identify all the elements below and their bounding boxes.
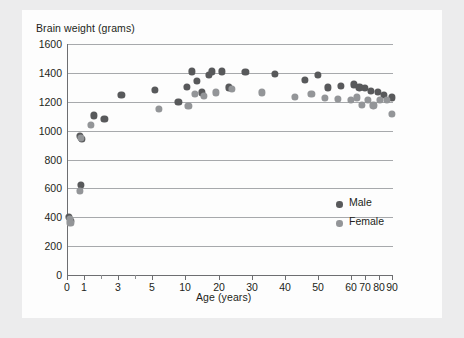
x-axis-tick <box>67 275 68 280</box>
y-axis-tick-labels: 02004006008001000120014001600 <box>26 44 62 275</box>
x-axis-tick <box>285 275 286 280</box>
y-axis-title: Brain weight (grams) <box>36 22 135 34</box>
x-axis-tick <box>351 275 352 280</box>
x-axis-tick <box>152 275 153 280</box>
y-axis-tick-label: 1600 <box>39 38 62 50</box>
gridline <box>68 246 393 247</box>
x-axis-tick-label: 50 <box>312 281 324 293</box>
y-axis-tick-label: 200 <box>44 240 62 252</box>
x-axis-minor-tick <box>101 275 102 279</box>
x-axis-tick <box>219 275 220 280</box>
gridline <box>68 73 393 74</box>
x-axis-tick-label: 40 <box>279 281 291 293</box>
x-axis-tick <box>118 275 119 280</box>
y-axis-tick-label: 400 <box>44 211 62 223</box>
x-axis-minor-tick <box>135 275 136 279</box>
x-axis-tick-label: 70 <box>359 281 371 293</box>
gridline <box>68 217 393 218</box>
x-axis-tick <box>392 275 393 280</box>
x-axis-tick-label: 90 <box>386 281 398 293</box>
gridline <box>68 160 393 161</box>
legend-label: Female <box>349 215 384 227</box>
gridline <box>68 131 393 132</box>
x-axis-tick <box>252 275 253 280</box>
gridline <box>68 44 393 45</box>
x-axis-tick-label: 80 <box>373 281 385 293</box>
legend-marker-icon <box>336 220 343 227</box>
x-axis-tick-label: 5 <box>149 281 155 293</box>
x-axis-tick <box>318 275 319 280</box>
y-axis-tick-label: 600 <box>44 182 62 194</box>
gridline <box>68 102 393 103</box>
y-axis-tick-label: 1000 <box>39 125 62 137</box>
x-axis-tick-label: 60 <box>345 281 357 293</box>
x-axis-tick-label: 1 <box>81 281 87 293</box>
plot-area <box>67 44 392 275</box>
legend-label: Male <box>349 196 372 208</box>
x-axis-tick <box>84 275 85 280</box>
y-axis-tick-label: 1400 <box>39 67 62 79</box>
x-axis-tick <box>365 275 366 280</box>
x-axis-line <box>67 275 392 276</box>
x-axis-tick-label: 10 <box>179 281 191 293</box>
gridline <box>68 188 393 189</box>
x-axis-tick-label: 30 <box>246 281 258 293</box>
scatter-chart: Brain weight (grams) 0200400600800100012… <box>0 0 464 338</box>
x-axis-tick <box>379 275 380 280</box>
figure-card: Brain weight (grams) 0200400600800100012… <box>0 0 464 338</box>
legend-marker-icon <box>336 201 343 208</box>
y-axis-tick-label: 0 <box>56 269 62 281</box>
x-axis-tick-label: 0 <box>64 281 70 293</box>
y-axis-tick-label: 1200 <box>39 96 62 108</box>
x-axis-tick <box>185 275 186 280</box>
x-axis-tick-label: 20 <box>213 281 225 293</box>
x-axis-tick-label: 3 <box>115 281 121 293</box>
y-axis-tick-label: 800 <box>44 154 62 166</box>
data-point-female <box>388 110 395 117</box>
